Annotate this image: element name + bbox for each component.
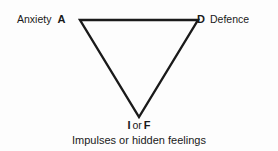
defence-label-text: Defence	[210, 13, 249, 25]
vertex-label-defence: DDefence	[197, 14, 249, 25]
triangle-outline	[80, 20, 198, 117]
triangle-of-conflict-diagram: AnxietyA DDefence IorF Impulses or hidde…	[0, 0, 278, 151]
vertex-label-apex: IorF	[0, 120, 278, 131]
anxiety-vertex-letter: A	[57, 13, 65, 25]
apex-vertex-letter-impulses: I	[127, 119, 130, 131]
vertex-label-anxiety: AnxietyA	[17, 14, 65, 25]
apex-conjunction: or	[132, 119, 141, 131]
apex-caption-text: Impulses or hidden feelings	[0, 135, 278, 146]
anxiety-label-text: Anxiety	[17, 13, 51, 25]
defence-vertex-letter: D	[197, 13, 205, 25]
apex-vertex-letter-feelings: F	[144, 119, 151, 131]
